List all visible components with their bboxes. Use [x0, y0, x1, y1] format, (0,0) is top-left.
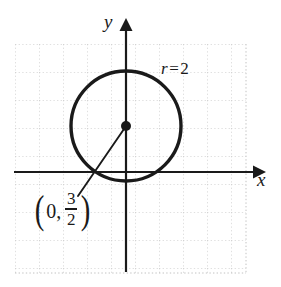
- fraction-numerator: 3: [66, 190, 77, 207]
- coordinate-x-value: 0,: [46, 198, 61, 221]
- fraction-three-halves: 3 2: [65, 190, 77, 228]
- math-figure-circle: y x r=2 ( 0, 3 2 ): [0, 0, 281, 287]
- radius-annotation: r=2: [161, 60, 189, 77]
- radius-equals-sign: =: [169, 59, 179, 78]
- radius-variable: r: [161, 59, 168, 78]
- figure-canvas: [0, 0, 281, 287]
- y-axis-label: y: [104, 12, 112, 31]
- fraction-denominator: 2: [66, 211, 77, 228]
- x-axis-label: x: [257, 170, 265, 189]
- paren-open: (: [35, 192, 45, 227]
- center-coordinate-annotation: ( 0, 3 2 ): [33, 190, 93, 228]
- paren-close: ): [81, 192, 91, 227]
- center-point-dot: [121, 121, 131, 131]
- radius-value: 2: [180, 59, 189, 78]
- grid: [15, 44, 246, 273]
